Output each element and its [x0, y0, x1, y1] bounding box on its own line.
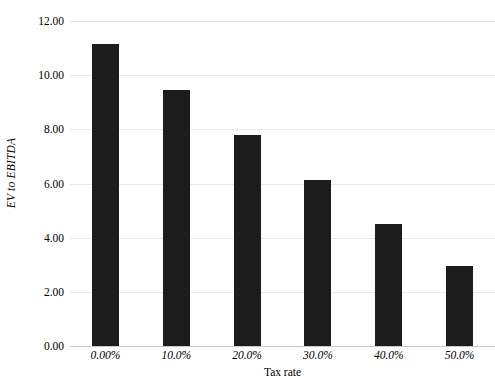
y-tick-label: 0.00: [44, 340, 64, 352]
plot-area: [70, 21, 495, 346]
y-tick-label: 6.00: [44, 178, 64, 190]
y-tick-label: 4.00: [44, 232, 64, 244]
y-tick-label: 8.00: [44, 123, 64, 135]
axis-baseline: [70, 346, 495, 347]
x-tick-label: 0.00%: [91, 349, 121, 361]
y-axis-title: EV to EBITDA: [0, 0, 22, 346]
bar: [375, 224, 402, 346]
x-tick-label: 20.0%: [232, 349, 262, 361]
x-axis-title: Tax rate: [70, 366, 495, 378]
bar-series: [70, 21, 495, 346]
x-tick-label: 40.0%: [374, 349, 404, 361]
x-axis-tick-labels: 0.00%10.0%20.0%30.0%40.0%50.0%: [70, 349, 495, 367]
x-tick-label: 50.0%: [445, 349, 475, 361]
y-axis-title-text: EV to EBITDA: [5, 138, 17, 209]
bar: [446, 266, 473, 346]
bar: [92, 44, 119, 346]
bar-chart: EV to EBITDA 0.002.004.006.008.0010.0012…: [0, 0, 495, 383]
y-axis-tick-labels: 0.002.004.006.008.0010.0012.00: [22, 0, 70, 383]
y-tick-label: 12.00: [38, 15, 64, 27]
x-tick-label: 30.0%: [303, 349, 333, 361]
bar: [234, 135, 261, 346]
bar: [163, 90, 190, 346]
bar: [304, 180, 331, 346]
y-tick-label: 10.00: [38, 69, 64, 81]
y-tick-label: 2.00: [44, 286, 64, 298]
x-tick-label: 10.0%: [161, 349, 191, 361]
